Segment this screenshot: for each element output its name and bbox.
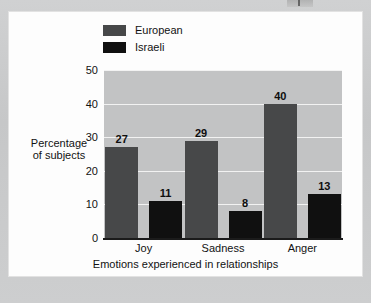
gridline xyxy=(104,70,342,71)
gridline xyxy=(104,204,342,205)
y-axis-tick-label: 20 xyxy=(86,165,104,177)
bar-joy-israeli: 11 xyxy=(149,201,182,238)
y-axis-title-line-2: of subjects xyxy=(21,149,97,161)
y-axis-tick-label: 40 xyxy=(86,98,104,110)
bar-value-label: 8 xyxy=(242,197,248,209)
bar-value-label: 29 xyxy=(195,127,207,139)
plot-area: 0102030405027112984013 xyxy=(104,70,342,238)
x-axis-tick-label-sadness: Sadness xyxy=(202,242,245,254)
scan-artifact xyxy=(287,0,313,7)
bar-value-label: 27 xyxy=(116,133,128,145)
scan-artifact-tick xyxy=(298,0,300,6)
x-axis-tick-label-joy: Joy xyxy=(135,242,152,254)
x-axis-title: Emotions experienced in relationships xyxy=(9,258,362,270)
y-axis-tick-label: 10 xyxy=(86,198,104,210)
bar-anger-israeli: 13 xyxy=(308,194,341,238)
bar-joy-european: 27 xyxy=(105,147,138,238)
gridline xyxy=(104,171,342,172)
chart-figure-card: European Israeli Percentage of subjects … xyxy=(9,12,362,276)
bar-sadness-israeli: 8 xyxy=(229,211,262,238)
bar-value-label: 40 xyxy=(274,90,286,102)
y-axis-tick-label: 50 xyxy=(86,64,104,76)
bar-sadness-european: 29 xyxy=(185,141,218,238)
chart-plot-wrapper: Percentage of subjects 01020304050271129… xyxy=(9,12,362,276)
bar-value-label: 13 xyxy=(318,180,330,192)
bar-anger-european: 40 xyxy=(264,104,297,238)
gridline xyxy=(104,137,342,138)
x-axis-line xyxy=(103,238,343,240)
bar-value-label: 11 xyxy=(160,187,172,199)
gridline xyxy=(104,104,342,105)
x-axis-tick-label-anger: Anger xyxy=(288,242,317,254)
y-axis-tick-label: 30 xyxy=(86,131,104,143)
